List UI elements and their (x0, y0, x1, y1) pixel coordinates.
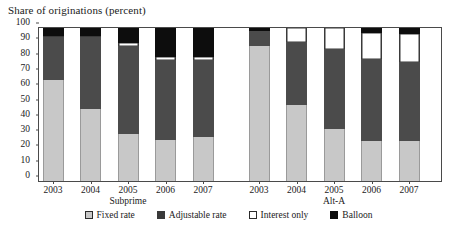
x-axis-tick-label: 2007 (400, 185, 419, 195)
x-axis-tick-mark (203, 181, 204, 184)
bar-segment-interest-only (324, 28, 345, 49)
x-axis-tick-label: 2006 (362, 185, 381, 195)
bar-segment-adjustable-rate (399, 62, 420, 142)
y-axis: 0102030405060708090100 (0, 22, 36, 179)
x-axis-tick-label: 2004 (287, 185, 306, 195)
y-axis-tick-label: 40 (21, 110, 31, 120)
bar-segment-fixed-rate (80, 109, 101, 181)
legend-item[interactable]: Adjustable rate (157, 210, 227, 220)
bar-stack[interactable] (324, 28, 345, 181)
bar-segment-fixed-rate (43, 80, 64, 181)
plot-inner (39, 28, 441, 181)
bar-stack[interactable] (43, 28, 64, 181)
bar-segment-adjustable-rate (43, 37, 64, 80)
x-axis-tick-mark (91, 181, 92, 184)
y-axis-tick-label: 20 (21, 141, 31, 151)
bar-segment-interest-only (361, 33, 382, 59)
x-axis-tick-label: 2006 (156, 185, 175, 195)
bar-segment-fixed-rate (193, 137, 214, 181)
legend-item[interactable]: Fixed rate (85, 210, 135, 220)
bar-stack[interactable] (249, 28, 270, 181)
legend-item-label: Adjustable rate (169, 210, 227, 220)
balloon-swatch (330, 211, 338, 219)
y-axis-tick-label: 30 (21, 125, 31, 135)
x-axis-tick-label: 2003 (44, 185, 63, 195)
y-axis-tick-label: 50 (21, 95, 31, 105)
bar-segment-adjustable-rate (80, 37, 101, 109)
x-axis-tick-mark (297, 181, 298, 184)
x-axis-tick-mark (53, 181, 54, 184)
x-axis-group-label: Alt-A (323, 196, 345, 206)
bar-stack[interactable] (118, 28, 139, 181)
legend-item[interactable]: Interest only (249, 210, 309, 220)
bar-stack[interactable] (399, 28, 420, 181)
chart-legend: Fixed rateAdjustable rateInterest onlyBa… (0, 210, 457, 220)
bar-stack[interactable] (361, 28, 382, 181)
bar-segment-adjustable-rate (286, 42, 307, 105)
x-axis-tick-mark (372, 181, 373, 184)
x-axis-tick-mark (409, 181, 410, 184)
x-axis-tick-mark (259, 181, 260, 184)
interest-only-swatch (249, 211, 257, 219)
bar-stack[interactable] (286, 28, 307, 181)
bar-segment-fixed-rate (324, 129, 345, 181)
adjustable-rate-swatch (157, 211, 165, 219)
bar-segment-adjustable-rate (155, 60, 176, 140)
bar-stack[interactable] (155, 28, 176, 181)
legend-item-label: Balloon (342, 210, 372, 220)
bar-segment-balloon (43, 28, 64, 36)
y-axis-tick-label: 10 (21, 156, 31, 166)
bar-segment-fixed-rate (155, 140, 176, 181)
y-axis-tick-label: 0 (25, 171, 30, 181)
y-axis-tick-label: 60 (21, 79, 31, 89)
y-axis-tick-label: 70 (21, 64, 31, 74)
plot-area (38, 27, 442, 182)
bar-segment-fixed-rate (361, 141, 382, 181)
x-axis-tick-mark (166, 181, 167, 184)
y-axis-tick-label: 80 (21, 49, 31, 59)
x-axis-group-label: Subprime (110, 196, 147, 206)
x-axis-tick-mark (128, 181, 129, 184)
bar-segment-adjustable-rate (249, 31, 270, 46)
x-axis-tick-mark (334, 181, 335, 184)
bar-stack[interactable] (80, 28, 101, 181)
bar-segment-fixed-rate (399, 141, 420, 181)
bar-segment-balloon (155, 28, 176, 57)
bar-segment-fixed-rate (118, 134, 139, 181)
x-axis-tick-label: 2004 (81, 185, 100, 195)
bar-segment-adjustable-rate (118, 46, 139, 133)
bar-segment-interest-only (286, 28, 307, 42)
chart-figure: Share of originations (percent) 01020304… (0, 0, 457, 232)
bar-segment-interest-only (399, 34, 420, 62)
bar-segment-adjustable-rate (193, 60, 214, 137)
bar-segment-balloon (80, 28, 101, 36)
y-axis-tick-label: 90 (21, 34, 31, 44)
x-axis-tick-label: 2007 (194, 185, 213, 195)
x-axis-tick-label: 2005 (119, 185, 138, 195)
bar-segment-fixed-rate (286, 105, 307, 182)
legend-item-label: Fixed rate (97, 210, 135, 220)
legend-item[interactable]: Balloon (330, 210, 372, 220)
bar-segment-balloon (118, 28, 139, 43)
fixed-rate-swatch (85, 211, 93, 219)
x-axis-tick-label: 2005 (325, 185, 344, 195)
bar-stack[interactable] (193, 28, 214, 181)
y-axis-tick-mark (36, 23, 39, 24)
y-axis-tick-label: 100 (16, 18, 30, 28)
bar-segment-adjustable-rate (324, 49, 345, 129)
legend-item-label: Interest only (261, 210, 309, 220)
bar-segment-balloon (193, 28, 214, 57)
bar-segment-fixed-rate (249, 46, 270, 181)
x-axis-tick-label: 2003 (250, 185, 269, 195)
bar-segment-adjustable-rate (361, 59, 382, 142)
chart-title: Share of originations (percent) (8, 4, 146, 16)
